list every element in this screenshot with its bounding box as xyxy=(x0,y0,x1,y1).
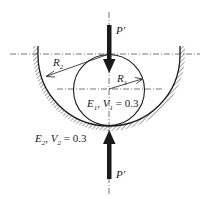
label-ball-material: E1, V1 = 0.3 xyxy=(86,97,139,112)
load-arrow-bottom-head-icon xyxy=(103,130,116,144)
label-load-bottom: P′ xyxy=(115,168,126,180)
label-r2: R2 xyxy=(52,56,64,71)
label-load-top: P′ xyxy=(115,24,126,36)
label-seat-material: E2, V2 = 0.3 xyxy=(34,132,87,147)
contact-diagram: P′ P′ R2 R1 E1, V1 = 0.3 E2, V2 = 0.3 xyxy=(0,0,205,199)
label-r1: R1 xyxy=(116,72,127,87)
load-arrow-bottom-shaft xyxy=(107,141,112,179)
load-arrow-top-shaft xyxy=(107,25,112,62)
load-arrow-top-head-icon xyxy=(103,59,116,73)
